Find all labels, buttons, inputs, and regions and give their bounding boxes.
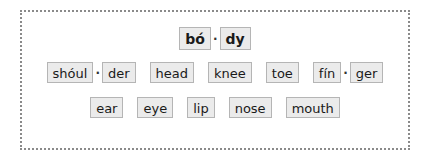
syllable-box: ger <box>350 62 384 83</box>
syllable-box: toe <box>266 62 299 83</box>
word-row-3: ear eye lip nose mouth <box>22 97 408 118</box>
word-eye: eye <box>137 97 173 118</box>
word-mouth: mouth <box>286 97 340 118</box>
syllable-separator: · <box>95 66 100 80</box>
title-row: bó · dy <box>22 27 408 50</box>
word-finger: fín · ger <box>313 62 384 83</box>
syllable-box: der <box>102 62 136 83</box>
word-row-2: shóul · der head knee toe fín · ger <box>22 62 408 83</box>
word-body: bó · dy <box>179 27 250 50</box>
syllable-separator: · <box>343 66 348 80</box>
syllable-box: lip <box>187 97 214 118</box>
dotted-frame: bó · dy shóul · der head knee toe fín · … <box>20 10 410 150</box>
syllable-box: mouth <box>286 97 340 118</box>
word-lip: lip <box>187 97 214 118</box>
syllable-box: dy <box>220 27 251 50</box>
syllable-box: head <box>150 62 194 83</box>
syllable-box: nose <box>229 97 272 118</box>
word-head: head <box>150 62 194 83</box>
syllable-box: bó <box>179 27 211 50</box>
word-nose: nose <box>229 97 272 118</box>
word-knee: knee <box>208 62 252 83</box>
syllable-box: eye <box>137 97 173 118</box>
syllable-box: fín <box>313 62 341 83</box>
word-shoulder: shóul · der <box>47 62 136 83</box>
syllable-box: shóul <box>47 62 94 83</box>
word-toe: toe <box>266 62 299 83</box>
syllable-separator: · <box>213 32 218 46</box>
word-ear: ear <box>90 97 123 118</box>
syllable-box: knee <box>208 62 252 83</box>
syllable-box: ear <box>90 97 123 118</box>
